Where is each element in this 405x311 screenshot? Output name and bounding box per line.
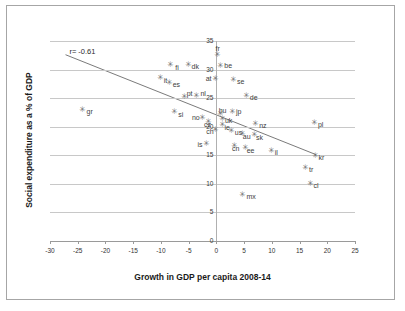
data-point-label-ch: ch [206, 128, 213, 135]
x-tick-mark-0 [216, 241, 217, 244]
data-point-label-tr: tr [309, 166, 313, 173]
data-point-label-dk: dk [192, 63, 199, 70]
x-tick-label--30: -30 [38, 247, 62, 254]
data-point-label-pl: pl [318, 121, 323, 128]
data-point-label-kr: kr [319, 154, 325, 161]
data-point-label-se: se [237, 78, 244, 85]
data-point-label-es: es [173, 81, 180, 88]
x-tick-mark--25 [78, 241, 79, 244]
data-point-label-nz: nz [259, 122, 266, 129]
x-tick-mark--20 [105, 241, 106, 244]
x-tick-mark-20 [327, 241, 328, 244]
y-tick-label-15: 15 [197, 151, 213, 158]
data-point-dk: ✳ [185, 61, 191, 67]
y-axis-line [216, 41, 217, 241]
x-tick-label--25: -25 [66, 247, 90, 254]
data-point-label-hu: hu [219, 107, 227, 114]
x-tick-mark-15 [300, 241, 301, 244]
x-tick-label--15: -15 [121, 247, 145, 254]
data-point-it: ✳ [157, 74, 163, 80]
data-point-jp: ✳ [229, 108, 235, 114]
data-point-de: ✳ [243, 92, 249, 98]
data-point-label-gr: gr [87, 108, 93, 115]
x-tick-label--10: -10 [149, 247, 173, 254]
data-point-label-at: at [206, 75, 212, 82]
y-tick-label-10: 10 [197, 180, 213, 187]
data-point-kr: ✳ [312, 152, 318, 158]
data-point-nl: ✳ [193, 92, 199, 98]
data-point-label-fi: fi [175, 64, 179, 71]
data-point-fi: ✳ [167, 61, 173, 67]
data-point-label-de: de [250, 94, 258, 101]
data-point-be: ✳ [217, 62, 223, 68]
data-point-label-jp: jp [236, 108, 241, 115]
data-point-tr: ✳ [302, 164, 308, 170]
data-point-label-si: si [178, 111, 183, 118]
data-point-es: ✳ [166, 79, 172, 85]
x-tick-mark--10 [161, 241, 162, 244]
data-point-label-cl: cl [314, 182, 319, 189]
data-point-si: ✳ [171, 108, 177, 114]
x-tick-mark-25 [355, 241, 356, 244]
plot-area: 05101520253035-30-25-20-15-10-5051015202… [50, 41, 355, 241]
x-tick-mark-10 [272, 241, 273, 244]
data-point-label-no: no [192, 114, 200, 121]
x-tick-label-0: 0 [204, 247, 228, 254]
x-tick-label-20: 20 [315, 247, 339, 254]
x-tick-label--5: -5 [177, 247, 201, 254]
data-point-label-nl: nl [200, 90, 205, 97]
x-tick-mark-5 [244, 241, 245, 244]
data-point-gr: ✳ [79, 106, 85, 112]
data-point-is: ✳ [203, 140, 209, 146]
x-tick-mark--30 [50, 241, 51, 244]
correlation-annotation: r= -0.61 [69, 47, 95, 56]
data-point-label-fr: fr [215, 45, 219, 52]
y-tick-label-5: 5 [197, 208, 213, 215]
y-tick-label-35: 35 [197, 37, 213, 44]
data-point-nz: ✳ [252, 120, 258, 126]
x-tick-label-5: 5 [232, 247, 256, 254]
data-point-at: ✳ [212, 75, 218, 81]
data-point-label-au: au [243, 133, 251, 140]
x-axis-title: Growth in GDP per capita 2008-14 [0, 272, 405, 282]
x-tick-label-25: 25 [343, 247, 367, 254]
data-point-label-cz: cz [204, 121, 211, 128]
y-tick-label-0: 0 [197, 237, 213, 244]
plot-wrapper: 05101520253035-30-25-20-15-10-5051015202… [0, 0, 405, 311]
chart-figure: 05101520253035-30-25-20-15-10-5051015202… [0, 0, 405, 311]
y-axis-title: Social expenditure as a % of GDP [24, 45, 34, 235]
data-point-label-pt: pt [187, 90, 193, 97]
data-point-pl: ✳ [311, 119, 317, 125]
data-point-label-il: il [275, 149, 278, 156]
x-tick-mark--5 [189, 241, 190, 244]
x-tick-label--20: -20 [93, 247, 117, 254]
x-tick-label-15: 15 [288, 247, 312, 254]
data-point-us: ✳ [228, 127, 234, 133]
data-point-label-mx: mx [246, 193, 255, 200]
data-point-label-ee: ee [247, 147, 255, 154]
data-point-il: ✳ [268, 147, 274, 153]
data-point-mx: ✳ [239, 191, 245, 197]
data-point-se: ✳ [230, 76, 236, 82]
x-tick-label-10: 10 [260, 247, 284, 254]
data-point-label-be: be [224, 62, 232, 69]
x-tick-mark--15 [133, 241, 134, 244]
y-tick-label-30: 30 [197, 66, 213, 73]
data-point-label-sk: sk [256, 134, 263, 141]
data-point-label-cn: cn [232, 145, 239, 152]
data-point-cl: ✳ [307, 180, 313, 186]
data-point-label-is: is [197, 141, 202, 148]
